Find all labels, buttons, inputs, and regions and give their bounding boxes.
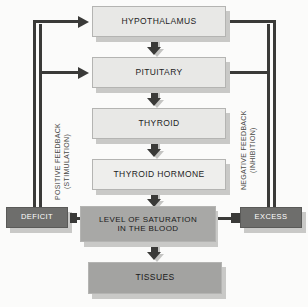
excess-connector-nub bbox=[231, 213, 240, 223]
thyroid-label: THYROID bbox=[138, 119, 179, 129]
positive-feedback-hypothalamus-arrowhead bbox=[78, 16, 89, 28]
thyroid-hormone-label: THYROID HORMONE bbox=[114, 170, 205, 180]
positive-feedback-outer-vertical bbox=[33, 20, 36, 212]
positive-feedback-inner-vertical bbox=[39, 24, 42, 212]
tissues-label: TISSUES bbox=[135, 273, 174, 283]
node-pituitary[interactable]: PITUITARY bbox=[92, 57, 226, 88]
pituitary-label: PITUITARY bbox=[135, 68, 182, 78]
node-excess[interactable]: EXCESS bbox=[240, 207, 302, 228]
excess-label: EXCESS bbox=[255, 213, 288, 222]
negative-feedback-inner-horizontal bbox=[228, 71, 270, 74]
flow-arrow-1-head bbox=[147, 47, 161, 55]
thyroid-feedback-diagram: HYPOTHALAMUS PITUITARY THYROID THYROID H… bbox=[0, 0, 308, 307]
node-tissues[interactable]: TISSUES bbox=[88, 262, 222, 294]
node-hypothalamus[interactable]: HYPOTHALAMUS bbox=[92, 6, 226, 37]
positive-feedback-inner-horizontal bbox=[39, 71, 81, 74]
node-level-of-saturation[interactable]: LEVEL OF SATURATION IN THE BLOOD bbox=[80, 206, 216, 242]
positive-feedback-caption-line2: (STIMULATION) bbox=[63, 123, 72, 200]
flow-arrow-2-head bbox=[147, 98, 161, 106]
deficit-connector-nub bbox=[70, 213, 77, 223]
node-deficit[interactable]: DEFICIT bbox=[6, 207, 68, 228]
flow-arrow-5-head bbox=[147, 252, 161, 260]
saturation-label-line2: IN THE BLOOD bbox=[117, 224, 178, 233]
deficit-label: DEFICIT bbox=[21, 213, 53, 222]
negative-feedback-caption: NEGATIVE FEEDBACK (INHIBITION) bbox=[240, 110, 258, 190]
flow-arrow-3-head bbox=[147, 149, 161, 157]
negative-feedback-caption-line2: (INHIBITION) bbox=[249, 110, 258, 190]
positive-feedback-caption: POSITIVE FEEDBACK (STIMULATION) bbox=[54, 123, 72, 200]
negative-feedback-caption-line1: NEGATIVE FEEDBACK bbox=[240, 110, 249, 190]
negative-feedback-outer-horizontal bbox=[228, 20, 276, 23]
positive-feedback-pituitary-arrowhead bbox=[78, 67, 89, 79]
positive-feedback-caption-line1: POSITIVE FEEDBACK bbox=[54, 123, 63, 200]
saturation-label-line1: LEVEL OF SATURATION bbox=[99, 215, 197, 224]
negative-feedback-outer-vertical bbox=[273, 20, 276, 212]
node-thyroid[interactable]: THYROID bbox=[92, 108, 226, 139]
negative-feedback-inner-vertical bbox=[267, 24, 270, 212]
node-thyroid-hormone[interactable]: THYROID HORMONE bbox=[92, 159, 226, 190]
hypothalamus-label: HYPOTHALAMUS bbox=[121, 17, 196, 27]
positive-feedback-outer-horizontal bbox=[33, 20, 81, 23]
